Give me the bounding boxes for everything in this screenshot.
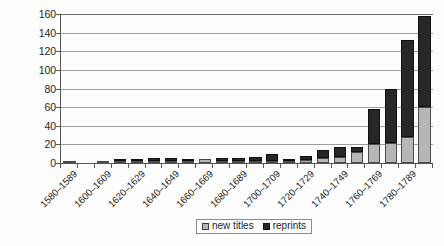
bar-slot [365, 14, 382, 163]
bar-slot [146, 14, 163, 163]
bar-segment-reprints [368, 109, 380, 144]
stacked-bar-chart: 160140120100806040200 1580–15891600–1609… [0, 0, 444, 246]
bar-segment-new-titles [401, 137, 413, 163]
y-axis-tick-mark [56, 33, 60, 34]
bar-slot [179, 14, 196, 163]
x-axis-tick-mark [347, 163, 348, 168]
x-axis-tick-mark [263, 163, 264, 168]
bar-segment-reprints [317, 150, 329, 158]
bar-slot [61, 14, 78, 163]
bar-slot [416, 14, 433, 163]
x-axis-tick-mark [212, 163, 213, 168]
y-axis-tick-label: 20 [16, 139, 56, 149]
bar-slot [382, 14, 399, 163]
y-axis-tick-mark [56, 89, 60, 90]
bar-slot [112, 14, 129, 163]
x-axis-tick-mark [128, 163, 129, 168]
y-axis-tick-mark [56, 51, 60, 52]
bar-slot [264, 14, 281, 163]
legend-swatch-icon-new-titles [202, 223, 209, 230]
bar-slot [230, 14, 247, 163]
bar-stack [300, 156, 312, 163]
x-axis-tick-mark [314, 163, 315, 168]
legend-swatch-icon-reprints [263, 223, 270, 230]
x-axis-tick-mark [415, 163, 416, 168]
x-axis-tick-mark [331, 163, 332, 168]
bar-slot [213, 14, 230, 163]
bar-stack [418, 16, 430, 163]
x-axis-tick-mark [297, 163, 298, 168]
bar-segment-reprints [385, 89, 397, 143]
y-axis-tick-label: 80 [16, 84, 56, 94]
y-axis-tick-label: 160 [16, 9, 56, 19]
bar-slot [332, 14, 349, 163]
bar-segment-reprints [266, 154, 278, 161]
x-axis-tick-mark [111, 163, 112, 168]
x-axis-tick-mark [280, 163, 281, 168]
x-axis-tick-mark [145, 163, 146, 168]
plot-area [60, 14, 433, 164]
y-axis-tick-label: 60 [16, 102, 56, 112]
bar-segment-reprints [401, 40, 413, 137]
x-axis-tick-mark [398, 163, 399, 168]
bar-segment-new-titles [368, 144, 380, 163]
legend-item-reprints: reprints [263, 221, 306, 231]
legend-label-reprints: reprints [273, 221, 306, 231]
bar-slot [247, 14, 264, 163]
y-axis-tick-mark [56, 144, 60, 145]
x-axis-tick-mark [77, 163, 78, 168]
chart-legend: new titles reprints [196, 219, 312, 234]
bar-slot [298, 14, 315, 163]
bars-layer [61, 14, 433, 163]
x-axis-tick-mark [178, 163, 179, 168]
x-axis-labels: 1580–15891600–16091620–16291640–16491660… [60, 169, 432, 221]
bar-slot [196, 14, 213, 163]
legend-item-new-titles: new titles [202, 221, 254, 231]
bar-slot [95, 14, 112, 163]
y-axis-tick-mark [56, 126, 60, 127]
bar-slot [315, 14, 332, 163]
bar-stack [351, 147, 363, 163]
bar-slot [78, 14, 95, 163]
x-axis-tick-mark [364, 163, 365, 168]
x-axis-tick-mark [381, 163, 382, 168]
y-axis-tick-label: 120 [16, 46, 56, 56]
y-axis-tick-label: 100 [16, 65, 56, 75]
y-axis-tick-mark [56, 70, 60, 71]
bar-slot [348, 14, 365, 163]
bar-stack [266, 154, 278, 163]
x-axis-tick-mark [246, 163, 247, 168]
x-axis-tick-mark [94, 163, 95, 168]
bar-stack [401, 40, 413, 163]
bar-slot [399, 14, 416, 163]
bar-stack [368, 109, 380, 163]
x-axis-tick-mark [195, 163, 196, 168]
y-axis-tick-mark [56, 14, 60, 15]
bar-stack [385, 89, 397, 163]
y-axis-tick-label: 40 [16, 121, 56, 131]
bar-stack [317, 150, 329, 163]
bar-stack [334, 147, 346, 163]
x-axis-tick-mark [60, 163, 61, 168]
legend-label-new-titles: new titles [212, 221, 254, 231]
x-axis-tick-mark [432, 163, 433, 168]
y-axis-tick-label: 140 [16, 28, 56, 38]
bar-slot [162, 14, 179, 163]
bar-segment-new-titles [385, 143, 397, 163]
x-axis-tick-mark [161, 163, 162, 168]
y-axis-tick-label: 0 [16, 158, 56, 168]
bar-segment-new-titles [418, 107, 430, 163]
bar-slot [129, 14, 146, 163]
x-axis-tick-mark [229, 163, 230, 168]
y-axis-tick-mark [56, 107, 60, 108]
bar-slot [281, 14, 298, 163]
bar-segment-reprints [334, 147, 346, 157]
bar-segment-new-titles [351, 152, 363, 163]
bar-segment-reprints [418, 16, 430, 107]
